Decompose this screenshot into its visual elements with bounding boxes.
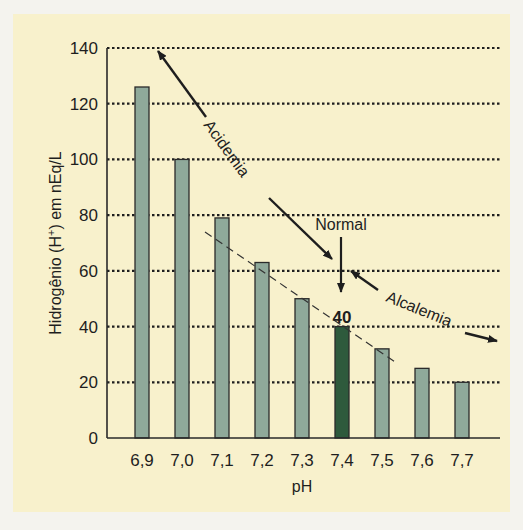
y-axis-label: Hidrogênio (H+) em nEq/L xyxy=(45,151,64,335)
x-tick-label: 7,0 xyxy=(170,451,194,470)
x-tick-label: 7,7 xyxy=(450,451,474,470)
y-tick-label: 120 xyxy=(70,95,98,114)
normal-label: Normal xyxy=(315,216,367,233)
acidemia-arrow-up-icon xyxy=(158,51,206,117)
bar xyxy=(415,368,429,438)
acidemia-label: Acidemia xyxy=(201,117,253,180)
y-tick-label: 80 xyxy=(79,206,98,225)
y-tick-label: 140 xyxy=(70,39,98,58)
x-tick-label: 7,1 xyxy=(210,451,234,470)
x-tick-label: 7,2 xyxy=(250,451,274,470)
x-tick-labels: 6,97,07,17,27,37,47,57,67,7 xyxy=(130,451,474,470)
highlight-value-label: 40 xyxy=(333,308,352,327)
x-tick-label: 7,3 xyxy=(290,451,314,470)
bar xyxy=(255,263,269,439)
bar xyxy=(135,87,149,438)
y-tick-label: 0 xyxy=(89,429,98,448)
y-tick-label: 20 xyxy=(79,373,98,392)
x-tick-label: 7,5 xyxy=(370,451,394,470)
x-tick-label: 7,6 xyxy=(410,451,434,470)
bar xyxy=(295,299,309,438)
bar xyxy=(175,159,189,438)
alcalemia-arrow-right-icon xyxy=(465,333,497,341)
x-tick-label: 6,9 xyxy=(130,451,154,470)
bar xyxy=(215,218,229,438)
y-tick-labels: 020406080100120140 xyxy=(70,39,98,448)
y-tick-label: 40 xyxy=(79,318,98,337)
bar xyxy=(455,382,469,438)
bar-chart: 020406080100120140 6,97,07,17,27,37,47,5… xyxy=(0,0,523,530)
y-tick-label: 60 xyxy=(79,262,98,281)
alcalemia-annotation: Alcalemia xyxy=(351,271,497,341)
y-tick-label: 100 xyxy=(70,150,98,169)
x-tick-label: 7,4 xyxy=(330,451,354,470)
bar-highlight xyxy=(335,327,349,438)
bar xyxy=(375,349,389,438)
x-axis-label: pH xyxy=(292,478,312,495)
alcalemia-arrow-left-icon xyxy=(351,271,378,290)
bars xyxy=(135,87,469,438)
alcalemia-label: Alcalemia xyxy=(384,288,455,330)
